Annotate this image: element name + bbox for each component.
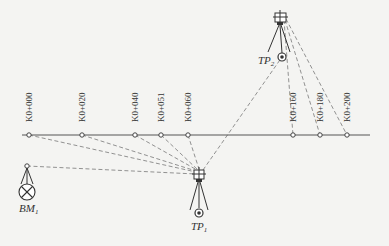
station-k0-040: K0+040: [130, 92, 140, 137]
tp2-label: TP2: [258, 54, 275, 68]
station-k0-051: K0+051: [156, 92, 166, 137]
turning-point-mark-icon: [278, 53, 286, 61]
station-k0-000: K0+000: [24, 92, 34, 137]
tp1-label: TP1: [191, 220, 207, 234]
svg-text:K0+060: K0+060: [183, 92, 193, 122]
station-k0-200: K0+200: [342, 92, 352, 137]
leveling-diagram: K0+000 K0+020 K0+040 K0+051 K0+060 K0+16…: [0, 0, 389, 246]
svg-text:K0+051: K0+051: [156, 92, 166, 122]
bm1-staff-point-icon: [25, 164, 29, 168]
benchmark-cross-circle-icon: [19, 184, 35, 200]
station-k0-180: K0+180: [315, 92, 325, 137]
turning-point-tp2: TP2: [258, 10, 290, 68]
svg-text:K0+040: K0+040: [130, 92, 140, 122]
benchmark-bm1: BM1: [19, 164, 38, 216]
svg-text:K0+000: K0+000: [24, 92, 34, 122]
turning-point-tp1: TP1: [190, 167, 208, 234]
bm1-label: BM1: [19, 202, 38, 216]
station-k0-060: K0+060: [183, 92, 193, 137]
diagram-svg: K0+000 K0+020 K0+040 K0+051 K0+060 K0+16…: [0, 0, 389, 246]
tp1-sight-lines: [27, 57, 282, 174]
turning-point-mark-icon: [195, 209, 203, 217]
station-k0-020: K0+020: [77, 92, 87, 137]
svg-text:K0+180: K0+180: [315, 92, 325, 122]
svg-text:K0+020: K0+020: [77, 92, 87, 122]
svg-text:K0+160: K0+160: [288, 92, 298, 122]
svg-text:K0+200: K0+200: [342, 92, 352, 122]
